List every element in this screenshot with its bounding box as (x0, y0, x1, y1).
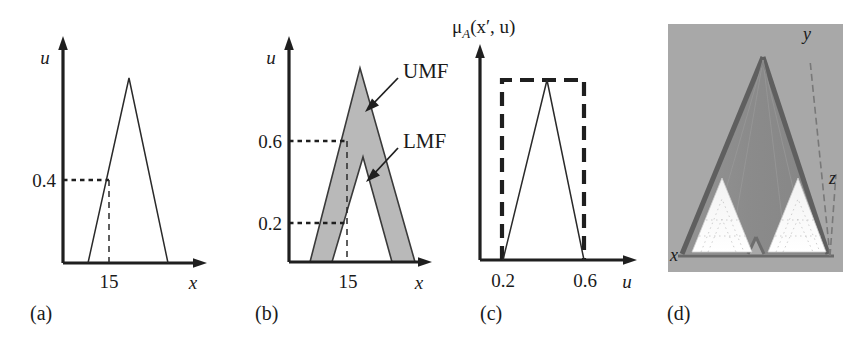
panel-a-y-axis-label: u (40, 47, 50, 68)
panel-b-y-tick-label-02: 0.2 (258, 213, 282, 234)
panel-c-x-tick-label-02: 0.2 (491, 270, 515, 291)
panel-c-caption: (c) (480, 302, 502, 325)
panel-a-x-tick-label: 15 (100, 271, 119, 292)
panel-b-chart: UMF LMF u 0.6 0.2 15 x (b) (215, 0, 440, 340)
panel-c-interval-box (502, 80, 584, 260)
panel-c-x-axis-arrowhead (623, 255, 637, 265)
panel-c: μA(x′, u) 0.2 0.6 u (c) (440, 0, 655, 340)
panel-b-y-axis-label: u (266, 47, 276, 68)
panel-c-y-axis-title-sub: A (461, 26, 470, 41)
panel-c-secondary-mf-curve (503, 80, 584, 260)
panel-c-chart: μA(x′, u) 0.2 0.6 u (c) (440, 0, 655, 340)
panel-c-y-axis-title: μA(x′, u) (452, 16, 515, 41)
panel-a-y-axis-arrowhead (58, 36, 68, 50)
panel-b-x-axis-label: x (414, 272, 424, 293)
panel-b-y-axis-arrowhead (284, 36, 294, 50)
panel-c-y-axis-arrowhead (475, 44, 485, 58)
panel-a-x-axis-arrowhead (193, 258, 207, 268)
panel-b-fou-region (310, 68, 415, 262)
panel-a-chart: u 0.4 15 x (a) (0, 0, 215, 340)
panel-d: x y z (d) (655, 0, 856, 340)
panel-a-caption: (a) (30, 302, 52, 325)
panel-b-y-tick-label-06: 0.6 (258, 131, 282, 152)
panel-d-y-axis-label: y (801, 24, 811, 44)
panel-d-x-axis-label: x (669, 245, 678, 265)
panel-b-x-axis-arrowhead (418, 257, 432, 267)
panel-d-labels: x y z (d) (655, 0, 856, 340)
panel-b-x-tick-label: 15 (339, 271, 358, 292)
panel-c-y-axis-title-mu: μ (452, 16, 462, 37)
panel-d-z-axis-label: z (828, 168, 836, 188)
panel-c-x-tick-label-06: 0.6 (573, 270, 597, 291)
panel-c-x-axis-label: u (622, 271, 632, 292)
panel-b-caption: (b) (255, 302, 278, 325)
panel-d-caption: (d) (667, 302, 690, 325)
panel-a: u 0.4 15 x (a) (0, 0, 215, 340)
panel-c-y-axis-title-rest: (x′, u) (470, 16, 515, 38)
panel-b: UMF LMF u 0.6 0.2 15 x (b) (215, 0, 440, 340)
figure-container: u 0.4 15 x (a) UMF (0, 0, 856, 340)
panel-a-membership-curve (88, 78, 168, 263)
panel-a-x-axis-label: x (188, 272, 198, 293)
panel-a-y-tick-label: 0.4 (32, 170, 56, 191)
